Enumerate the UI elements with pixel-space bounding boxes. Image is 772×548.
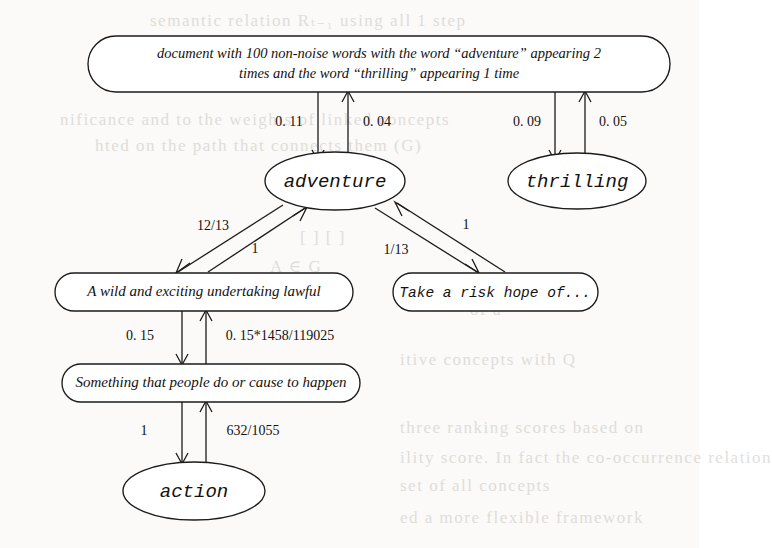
- edge-gloss1-to-glossaction: 0. 15: [126, 311, 188, 365]
- edge-weight-label: 12/13: [197, 218, 229, 233]
- edge-adventure-to-gloss1: 12/13: [176, 205, 283, 273]
- edge-weight-label: 0. 04: [363, 114, 391, 129]
- node-adventure-label: adventure: [284, 171, 387, 193]
- edge-gloss1-to-adventure: 1: [208, 207, 307, 272]
- edge-weight-label: 0. 15*1458/119025: [226, 328, 334, 343]
- node-thrilling-label: thrilling: [526, 171, 629, 193]
- edge-gloss2-to-adventure: 1: [395, 202, 505, 272]
- node-document-line-2: times and the word “thrilling” appearing…: [239, 65, 520, 81]
- edge-weight-label: 632/1055: [227, 423, 280, 438]
- edge-weight-label: 0. 09: [513, 114, 541, 129]
- node-gloss-adventure-1-label: A wild and exciting undertaking lawful: [86, 283, 320, 299]
- node-adventure[interactable]: adventure: [265, 152, 405, 210]
- node-gloss-action-label: Something that people do or cause to hap…: [75, 374, 346, 390]
- node-document-line-1: document with 100 non-noise words with t…: [157, 45, 601, 61]
- edge-adventure-to-document: 0. 04: [342, 91, 391, 160]
- node-document[interactable]: document with 100 non-noise words with t…: [88, 36, 670, 92]
- edge-weight-label: 0. 11: [275, 114, 302, 129]
- edge-weight-label: 1: [252, 241, 259, 256]
- node-thrilling[interactable]: thrilling: [508, 153, 646, 209]
- node-gloss-adventure-1[interactable]: A wild and exciting undertaking lawful: [55, 273, 353, 311]
- edge-weight-label: 1: [141, 423, 148, 438]
- edge-thrilling-to-document: 0. 05: [579, 91, 627, 160]
- edge-weight-label: 0. 15: [126, 328, 154, 343]
- node-gloss-adventure-2[interactable]: Take a risk hope of...: [393, 273, 598, 311]
- edge-document-to-adventure: 0. 11: [275, 92, 324, 161]
- edge-glossaction-to-action: 1: [141, 402, 189, 464]
- edge-document-to-thrilling: 0. 09: [513, 92, 561, 161]
- edge-weight-label: 1: [463, 217, 470, 232]
- edge-action-to-glossaction: 632/1055: [200, 401, 279, 463]
- node-gloss-action[interactable]: Something that people do or cause to hap…: [62, 364, 360, 402]
- node-action-label: action: [160, 481, 228, 503]
- node-action[interactable]: action: [123, 462, 265, 520]
- edge-weight-label: 1/13: [384, 242, 409, 257]
- edge-weight-label: 0. 05: [599, 114, 627, 129]
- edge-glossaction-to-gloss1: 0. 15*1458/119025: [200, 310, 334, 364]
- node-gloss-adventure-2-label: Take a risk hope of...: [399, 285, 590, 301]
